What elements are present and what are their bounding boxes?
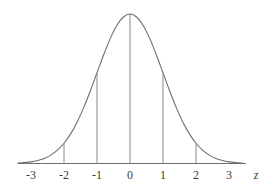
normal-curve-figure: -3-2-10123 z <box>0 0 270 192</box>
x-tick-label-1: 1 <box>160 168 166 182</box>
x-tick-label-3: 3 <box>226 168 232 182</box>
x-axis-name-label: z <box>253 168 259 182</box>
x-tick-label-neg2: -2 <box>59 168 69 182</box>
x-tick-label-2: 2 <box>193 168 199 182</box>
x-tick-label-0: 0 <box>127 168 133 182</box>
x-tick-label-neg1: -1 <box>92 168 102 182</box>
normal-distribution-chart: -3-2-10123 z <box>0 0 270 192</box>
x-tick-label-neg3: -3 <box>26 168 36 182</box>
ordinate-lines-group <box>64 14 196 164</box>
x-axis-tick-labels: -3-2-10123 <box>26 168 232 182</box>
